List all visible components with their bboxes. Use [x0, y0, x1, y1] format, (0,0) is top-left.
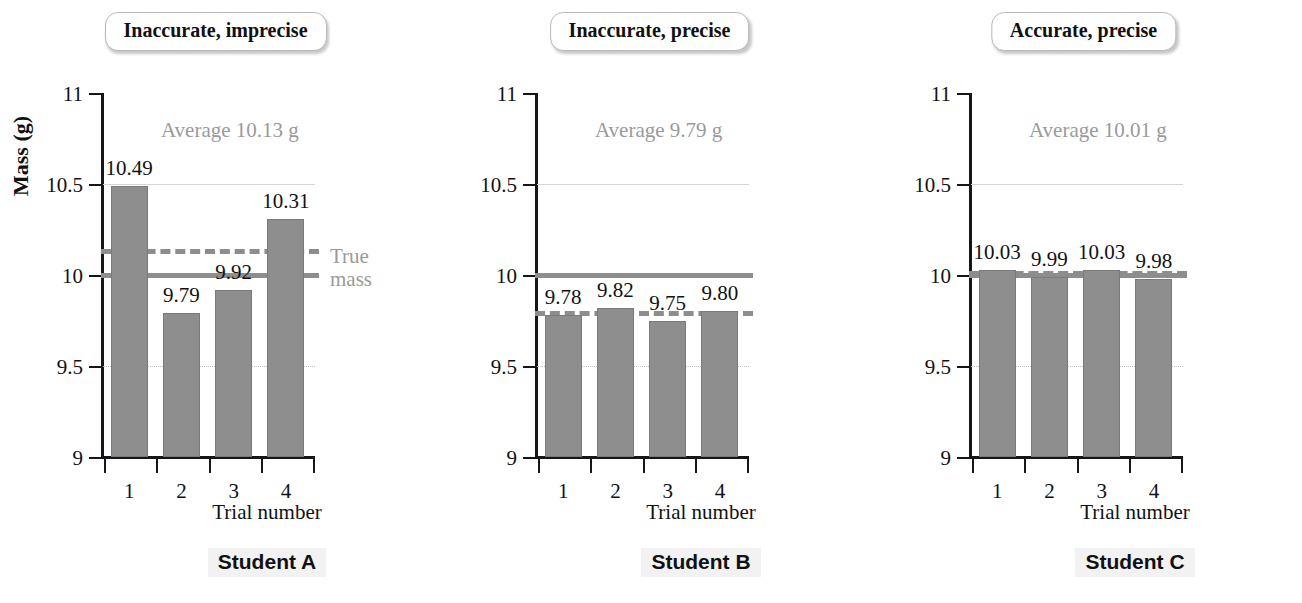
bar	[649, 321, 686, 458]
bar-value-label: 10.03	[974, 240, 1021, 265]
average-caption: Average 10.01 g	[1029, 118, 1167, 143]
y-tick-label: 10.5	[914, 173, 951, 198]
chart-panel-3: Accurate, precise1110.5109.5910.0319.992…	[868, 0, 1302, 603]
y-tick: 10.5	[523, 184, 537, 186]
panel-caption: Student C	[1075, 548, 1194, 577]
x-axis-title: Trial number	[1080, 500, 1189, 525]
bar-value-label: 9.98	[1136, 249, 1173, 274]
panel-caption: Student B	[641, 548, 760, 577]
plot-area: 1110.5109.5910.0319.99210.0339.984Averag…	[971, 93, 1180, 457]
x-tick	[313, 458, 315, 473]
bar-value-label: 9.78	[545, 285, 582, 310]
panel-title-badge: Inaccurate, precise	[550, 12, 750, 51]
x-tick	[1129, 458, 1131, 473]
y-tick-label: 10.5	[480, 173, 517, 198]
x-axis-title-wrap: Trial number	[868, 500, 1302, 525]
bar-value-label: 9.79	[163, 283, 200, 308]
x-tick	[538, 458, 540, 473]
x-tick	[209, 458, 211, 473]
y-tick: 9	[89, 457, 103, 459]
bar	[701, 311, 738, 457]
y-tick-label: 11	[497, 82, 517, 107]
x-tick	[972, 458, 974, 473]
x-tick	[104, 458, 106, 473]
plot-area: 1110.5109.5910.4919.7929.92310.314Averag…	[103, 93, 312, 457]
y-tick-label: 9.5	[491, 355, 517, 380]
x-tick	[695, 458, 697, 473]
x-tick	[156, 458, 158, 473]
y-tick-label: 9	[941, 446, 952, 471]
y-tick-label: 10	[930, 264, 951, 289]
plot-area: 1110.5109.599.7819.8229.7539.804Average …	[537, 93, 746, 457]
bar-value-label: 9.80	[702, 281, 739, 306]
x-axis-title-wrap: Trial number	[434, 500, 868, 525]
gridline-10.5	[537, 184, 749, 185]
x-tick	[1077, 458, 1079, 473]
true-mass-annotation-line2: mass	[330, 268, 372, 291]
y-tick: 9.5	[523, 366, 537, 368]
bar	[111, 186, 148, 457]
chart-panel-1: Inaccurate, impreciseMass (g)1110.5109.5…	[0, 0, 434, 603]
bar	[1031, 277, 1068, 457]
panel-title-badge: Accurate, precise	[991, 12, 1176, 51]
bar	[979, 270, 1016, 457]
panel-title-badge: Inaccurate, imprecise	[104, 12, 326, 51]
bar-value-label: 10.31	[262, 189, 309, 214]
bar-value-label: 9.75	[649, 291, 686, 316]
panel-caption: Student A	[208, 548, 326, 577]
bar	[215, 290, 252, 457]
y-axis-title: Mass (g)	[8, 116, 34, 196]
bar	[597, 308, 634, 457]
y-tick: 11	[523, 93, 537, 95]
bar	[163, 313, 200, 457]
y-tick-label: 9.5	[925, 355, 951, 380]
accuracy-precision-figure: Inaccurate, impreciseMass (g)1110.5109.5…	[0, 0, 1302, 603]
x-tick	[1024, 458, 1026, 473]
true-mass-annotation: Truemass	[330, 245, 372, 290]
y-tick-label: 10	[62, 264, 83, 289]
x-tick	[1181, 458, 1183, 473]
y-tick: 9.5	[89, 366, 103, 368]
average-caption: Average 10.13 g	[161, 118, 299, 143]
y-tick: 10.5	[89, 184, 103, 186]
chart-panel-2: Inaccurate, precise1110.5109.599.7819.82…	[434, 0, 868, 603]
y-tick-label: 11	[63, 82, 83, 107]
bar	[1083, 270, 1120, 457]
x-axis-title-wrap: Trial number	[0, 500, 434, 525]
panel-caption-wrap: Student B	[434, 548, 868, 577]
y-tick: 9	[523, 457, 537, 459]
average-caption: Average 9.79 g	[595, 118, 722, 143]
x-axis-title: Trial number	[646, 500, 755, 525]
bar-value-label: 9.92	[215, 260, 252, 285]
bar	[545, 315, 582, 457]
y-tick-label: 9	[73, 446, 84, 471]
panel-caption-wrap: Student C	[868, 548, 1302, 577]
x-tick	[747, 458, 749, 473]
y-tick-label: 10.5	[46, 173, 83, 198]
y-tick-label: 9.5	[57, 355, 83, 380]
bar	[267, 219, 304, 457]
bar-value-label: 9.82	[597, 278, 634, 303]
y-tick: 10.5	[957, 184, 971, 186]
y-tick-label: 9	[507, 446, 518, 471]
x-tick	[590, 458, 592, 473]
x-axis-title: Trial number	[212, 500, 321, 525]
y-tick: 9.5	[957, 366, 971, 368]
y-tick: 11	[89, 93, 103, 95]
x-tick	[643, 458, 645, 473]
bar	[1135, 279, 1172, 457]
bar-value-label: 10.49	[106, 156, 153, 181]
bar-value-label: 10.03	[1078, 240, 1125, 265]
y-tick: 9	[957, 457, 971, 459]
true-mass-line	[535, 273, 753, 278]
x-tick	[261, 458, 263, 473]
bar-value-label: 9.99	[1031, 247, 1068, 272]
panel-caption-wrap: Student A	[0, 548, 434, 577]
y-tick: 11	[957, 93, 971, 95]
gridline-10.5	[971, 184, 1183, 185]
y-tick-label: 11	[931, 82, 951, 107]
y-tick-label: 10	[496, 264, 517, 289]
true-mass-annotation-line1: True	[330, 245, 372, 268]
